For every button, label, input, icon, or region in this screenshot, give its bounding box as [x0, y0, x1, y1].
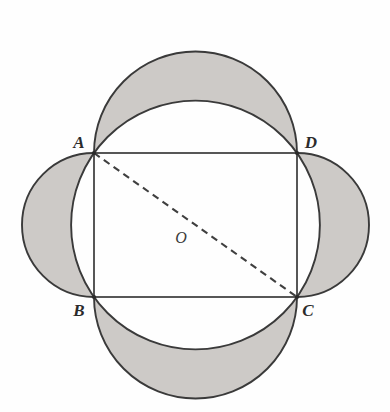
vertex-dot-a: [92, 151, 96, 155]
figure-canvas: A B C D O: [0, 0, 390, 412]
vertex-label-b: B: [72, 301, 84, 320]
vertex-label-c: C: [302, 301, 314, 320]
geometry-figure: A B C D O: [0, 0, 390, 412]
vertex-dot-c: [295, 295, 299, 299]
center-label-o: O: [175, 229, 187, 246]
vertex-label-a: A: [72, 133, 84, 152]
vertex-dot-b: [92, 295, 96, 299]
vertex-dot-d: [295, 151, 299, 155]
vertex-label-d: D: [304, 133, 317, 152]
